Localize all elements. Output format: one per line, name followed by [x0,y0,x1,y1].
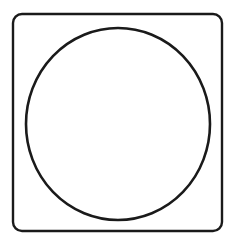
figure-canvas [0,0,232,246]
shape-drawing [0,0,232,246]
canvas-background [0,0,232,246]
